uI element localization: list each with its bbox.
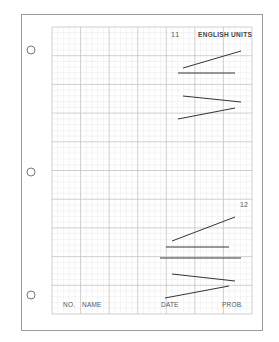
graph-paper-sheet [0, 0, 279, 342]
units-label: ENGLISH UNITS [198, 32, 252, 39]
problem-number-12: 12 [240, 201, 248, 208]
footer-prob-label: PROB. [222, 302, 243, 309]
footer-no-label: NO. [63, 302, 75, 309]
footer-name-label: NAME [82, 302, 102, 309]
problem-number-11: 11 [171, 31, 180, 38]
footer-date-label: DATE [161, 302, 179, 309]
binder-hole-icon [27, 46, 35, 54]
binder-hole-icon [27, 168, 35, 176]
binder-hole-icon [27, 291, 35, 299]
